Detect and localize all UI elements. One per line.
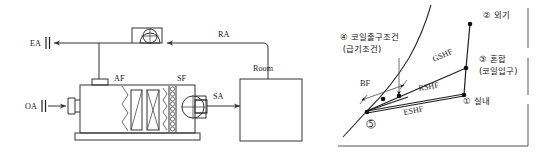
point3-text: 혼합 [490, 54, 506, 64]
outdoor-air-inlet [42, 98, 80, 114]
state-point-5-marker [365, 110, 370, 115]
label-point2: ②외기 [483, 10, 510, 20]
ahu-internals [122, 86, 176, 132]
cooling-coil-tubes [170, 87, 174, 131]
label-ra: RA [218, 30, 229, 39]
label-point1: ①실내 [463, 96, 490, 106]
label-oa: OA [25, 102, 37, 111]
state-point-3-marker [464, 66, 469, 71]
return-fan [132, 28, 162, 44]
label-sf: SF [177, 74, 187, 83]
figure-canvas: EA RA OA [0, 0, 549, 158]
label-af: AF [114, 74, 125, 83]
label-ea: EA [30, 39, 41, 48]
state-point-4-marker [397, 94, 402, 99]
supply-fan-scroll-fill [195, 100, 207, 113]
state-point-adp-marker [381, 97, 386, 102]
ahu-body [80, 85, 195, 133]
room-box [240, 79, 302, 141]
return-fan-housing [132, 28, 162, 43]
point4-text: 코일출구조건 [351, 32, 399, 42]
point5-number: 5 [368, 120, 373, 129]
label-bf: BF [360, 79, 370, 88]
ahu-casing [75, 79, 200, 140]
exhaust-air-duct [46, 37, 132, 79]
left-ahu-schematic: EA RA OA [0, 0, 549, 158]
saturation-curve [343, 5, 431, 137]
room-rect [240, 79, 302, 141]
right-psychrometric-chart: 5 GSHF RSHF ESHF BF ②외기 ③혼합 (코일입구) ①실내 ④… [338, 5, 528, 146]
outdoor-to-mixed-line [466, 24, 470, 68]
supply-fan [181, 95, 207, 119]
label-rshf: RSHF [418, 80, 440, 92]
air-filter-panel-1-diag [131, 90, 142, 130]
label-point4: ④코일출구조건 [340, 32, 399, 42]
point1-marker-glyph: ① [463, 96, 471, 106]
label-gshf: GSHF [431, 47, 454, 64]
point2-text: 외기 [494, 10, 510, 20]
ra-duct-elbow [263, 43, 268, 79]
label-room: Room [253, 64, 274, 73]
oa-transition [68, 98, 75, 114]
point2-marker-glyph: ② [483, 10, 491, 20]
label-point4-sub: (급기조건) [343, 44, 382, 54]
point1-text: 실내 [474, 96, 490, 106]
label-sa: SA [213, 92, 224, 101]
point3-marker-glyph: ③ [479, 54, 487, 64]
bf-tick-right [400, 80, 407, 89]
label-point3: ③혼합 [479, 54, 506, 64]
state-point-2-marker [468, 22, 473, 27]
ahu-return-stub [92, 79, 108, 85]
ahu-base [75, 133, 200, 140]
eliminator-zigzag [163, 88, 167, 130]
mixed-to-room-line [464, 68, 466, 95]
label-point3-sub: (코일입구) [479, 66, 518, 76]
point4-marker-glyph: ④ [340, 32, 348, 42]
prefilter-zigzag [122, 86, 128, 131]
